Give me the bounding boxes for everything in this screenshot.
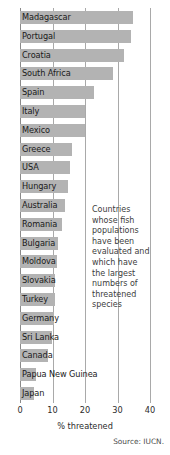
gridline-40: [150, 8, 151, 403]
bar-row: Mexico: [20, 124, 150, 137]
bar-category-label: Madagascar: [22, 11, 71, 24]
bar-row: Madagascar: [20, 11, 150, 24]
bar-category-label: Papua New Guinea: [22, 368, 98, 381]
bar-category-label: Slovakia: [22, 274, 56, 287]
x-tick-label-10: 10: [47, 405, 57, 415]
bar-category-label: South Africa: [22, 67, 71, 80]
bar-category-label: Bulgaria: [22, 237, 55, 250]
x-axis-label: % threatened: [0, 421, 170, 431]
bar-category-label: Greece: [22, 143, 51, 156]
bar-category-label: Sri Lanka: [22, 331, 59, 344]
bar-category-label: Portugal: [22, 30, 55, 43]
bar-row: Papua New Guinea: [20, 368, 150, 381]
chart-annotation: Countries whose fish populations have be…: [92, 205, 150, 311]
chart-page: MadagascarPortugalCroatiaSouth AfricaSpa…: [0, 0, 170, 455]
bar-category-label: USA: [22, 161, 39, 174]
x-tick-label-30: 30: [112, 405, 122, 415]
bar-row: Croatia: [20, 49, 150, 62]
bar-row: USA: [20, 161, 150, 174]
bar-category-label: Mexico: [22, 124, 50, 137]
bar-row: South Africa: [20, 67, 150, 80]
x-tick-label-20: 20: [80, 405, 90, 415]
bar-row: Italy: [20, 105, 150, 118]
x-tick-label-0: 0: [17, 405, 22, 415]
bar-row: Greece: [20, 143, 150, 156]
bar-row: Canada: [20, 349, 150, 362]
source-note: Source: IUCN.: [113, 437, 164, 446]
bar-category-label: Hungary: [22, 180, 56, 193]
bar-category-label: Spain: [22, 86, 44, 99]
bar-category-label: Croatia: [22, 49, 51, 62]
bar-row: Portugal: [20, 30, 150, 43]
bar-category-label: Australia: [22, 199, 57, 212]
bar-category-label: Canada: [22, 349, 53, 362]
bar-category-label: Romania: [22, 218, 57, 231]
bar-row: Germany: [20, 312, 150, 325]
bar-row: Hungary: [20, 180, 150, 193]
bar-category-label: Japan: [22, 387, 44, 400]
bar-row: Spain: [20, 86, 150, 99]
bar-category-label: Moldova: [22, 255, 56, 268]
bar-category-label: Turkey: [22, 293, 48, 306]
bar-row: Japan: [20, 387, 150, 400]
x-axis-ticks: 010203040: [20, 403, 150, 419]
bar-category-label: Germany: [22, 312, 59, 325]
x-tick-label-40: 40: [145, 405, 155, 415]
bar-category-label: Italy: [22, 105, 39, 118]
bar-row: Sri Lanka: [20, 331, 150, 344]
